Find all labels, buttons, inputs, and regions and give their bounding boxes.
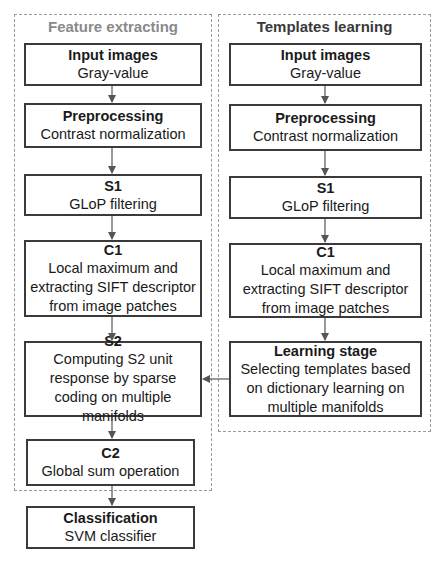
flow-arrows (0, 0, 439, 562)
